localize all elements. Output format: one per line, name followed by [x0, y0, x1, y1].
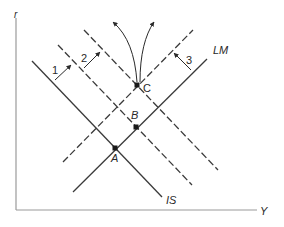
y-axis-label: Y: [260, 205, 268, 217]
point-b-label: B: [131, 109, 138, 121]
shift-arrow-2-label: 2: [81, 52, 87, 64]
shift-arrows: 1 2 3: [52, 52, 192, 80]
point-c-marker: [135, 83, 140, 88]
is-curve-shift-2: [84, 30, 218, 170]
axes: r Y: [14, 9, 268, 217]
point-a-marker: [113, 146, 118, 151]
r-axis-label: r: [14, 9, 18, 20]
lm-curves: LM: [63, 30, 229, 192]
is-curve-shift-1: [58, 45, 192, 185]
point-c-label: C: [143, 82, 151, 94]
is-lm-diagram: r Y IS LM 1 2 3 A B C: [0, 0, 284, 227]
lm-label: LM: [213, 44, 229, 56]
lm-curve-shift: [63, 30, 193, 162]
point-a-label: A: [110, 152, 118, 164]
ambiguous-shift-arrows: [113, 22, 154, 82]
curved-arrow-left: [113, 22, 137, 82]
shift-arrow-1-label: 1: [52, 64, 58, 76]
is-label: IS: [166, 194, 177, 206]
point-b-marker: [134, 125, 139, 130]
shift-arrow-3-label: 3: [186, 54, 192, 66]
curved-arrow-right: [140, 22, 154, 82]
